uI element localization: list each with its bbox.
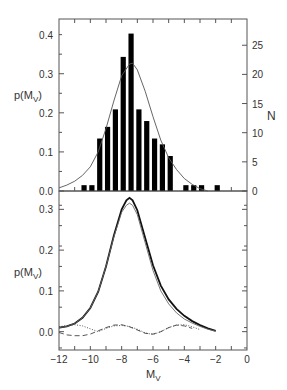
histogram-bar: [152, 139, 157, 191]
y2-tick-label: 5: [252, 157, 258, 168]
histogram-bar: [89, 185, 94, 191]
curve-solid-thin: [59, 203, 216, 331]
y-tick-label: 0.2: [39, 108, 53, 119]
x-tick-label: −4: [179, 354, 191, 365]
histogram-bar: [168, 156, 173, 191]
bottom-panel: 0.00.10.20.3 −12−10−8−6−4−20 p(MV) MV: [14, 191, 250, 383]
histogram-bar: [113, 109, 118, 191]
right-y-tick-labels: 0510152025: [252, 40, 264, 197]
y2-tick-label: 20: [252, 69, 264, 80]
x-tick-label: −10: [82, 354, 99, 365]
x-tick-labels: −12−10−8−6−4−20: [51, 354, 251, 365]
y-tick-label: 0.1: [39, 286, 53, 297]
curve-solid-thick: [59, 198, 216, 331]
histogram-bar: [136, 109, 141, 191]
y-tick-label: 0.0: [39, 186, 53, 197]
y-tick-label: 0.3: [39, 204, 53, 215]
histogram-bars: [81, 34, 219, 191]
y2-tick-label: 25: [252, 40, 264, 51]
y-tick-label: 0.3: [39, 69, 53, 80]
y-tick-label: 0.0: [39, 327, 53, 338]
histogram-bar: [183, 185, 188, 191]
x-tick-label: −2: [210, 354, 222, 365]
x-tick-label: −6: [147, 354, 159, 365]
bottom-ticks: [59, 205, 247, 350]
y2-tick-label: 0: [252, 186, 258, 197]
top-panel: 0.00.10.20.30.4 0510152025 p(MV) N: [14, 19, 276, 197]
y2-tick-label: 10: [252, 128, 264, 139]
bottom-y-axis-label: p(MV): [14, 266, 42, 281]
histogram-bar: [128, 34, 133, 191]
bottom-curves: [59, 198, 216, 336]
figure: 0.00.10.20.30.4 0510152025 p(MV) N 0.00.…: [0, 0, 287, 390]
y-tick-label: 0.2: [39, 245, 53, 256]
histogram-bar: [144, 121, 149, 191]
x-tick-label: 0: [244, 354, 250, 365]
y2-tick-label: 15: [252, 99, 264, 110]
histogram-bar: [105, 127, 110, 191]
x-tick-label: −8: [116, 354, 128, 365]
curve-dotted: [59, 325, 200, 335]
y-tick-label: 0.1: [39, 147, 53, 158]
histogram-bar: [81, 185, 86, 191]
curve-dashed: [59, 325, 192, 336]
top-y-axis-label: p(MV): [14, 89, 42, 104]
left-y-tick-labels: 0.00.10.20.30.4: [39, 30, 53, 197]
histogram-bar: [160, 144, 165, 191]
x-axis-label: MV: [146, 368, 161, 383]
histogram-bar: [215, 185, 220, 191]
y-tick-label: 0.4: [39, 30, 53, 41]
x-tick-label: −12: [51, 354, 68, 365]
right-y-axis-label: N: [267, 109, 276, 123]
